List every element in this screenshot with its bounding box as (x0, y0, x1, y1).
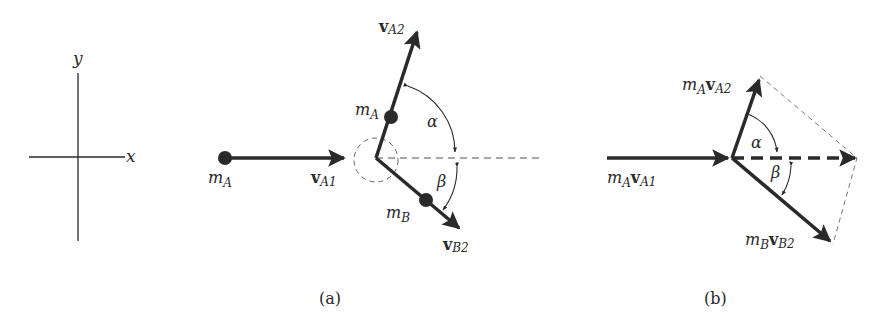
beta-arc-b (782, 166, 791, 195)
mass-a-initial-ball (218, 151, 232, 165)
v-b2-label: vB2 (442, 235, 469, 255)
p-b2-label: mBvB2 (745, 230, 795, 252)
alpha-label: α (427, 112, 438, 131)
coordinate-axes: y x (29, 48, 136, 241)
caption-b: (b) (704, 289, 727, 308)
caption-a: (a) (319, 289, 341, 308)
parallelogram-dashed-lines (760, 76, 857, 244)
v-a2-arrow (376, 32, 417, 158)
mass-b-ball (419, 193, 433, 207)
mass-a-initial-label: mA (208, 168, 232, 190)
p-a1-label: mAvA1 (607, 168, 656, 190)
p-a2-label: mAvA2 (682, 75, 731, 97)
beta-label-b: β (770, 163, 780, 182)
mass-b-label: mB (386, 203, 410, 225)
y-axis-label: y (72, 48, 83, 68)
collision-diagram: y x α β mA vA1 mA vA2 mB vB2 (a) α β (0, 0, 879, 332)
mass-a-after-label: mA (355, 100, 379, 122)
v-a1-label: vA1 (310, 168, 337, 189)
panel-a: α β mA vA1 mA vA2 mB vB2 (a) (208, 17, 540, 308)
p-b2-arrow (732, 158, 830, 241)
panel-b: α β mAvA1 mAvA2 mBvB2 (b) (607, 75, 857, 308)
alpha-label-b: α (751, 133, 762, 152)
beta-label: β (436, 172, 446, 191)
x-axis-label: x (126, 146, 136, 166)
v-a2-label: vA2 (378, 17, 405, 37)
mass-a-after-ball (384, 110, 398, 124)
